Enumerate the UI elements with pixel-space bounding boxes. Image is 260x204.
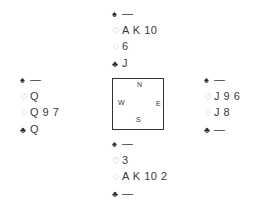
diamond-icon: ♢ <box>112 39 122 56</box>
north-clubs: ♣J <box>112 55 157 72</box>
east-diamonds: ♢J 8 <box>204 104 240 121</box>
south-hearts: ♡3 <box>112 152 168 169</box>
diamond-icon: ♢ <box>112 169 122 186</box>
east-hearts: ♡J 9 6 <box>204 88 240 105</box>
spade-icon: ♠ <box>204 72 214 89</box>
spade-icon: ♠ <box>20 72 30 89</box>
diamond-icon: ♢ <box>20 105 30 122</box>
north-spades: ♠— <box>112 5 157 22</box>
south-spades: ♠— <box>112 135 168 152</box>
compass-box: N W E S <box>112 78 164 130</box>
west-hearts: ♡Q <box>20 88 59 105</box>
spade-icon: ♠ <box>112 6 122 23</box>
compass-south: S <box>136 116 141 123</box>
diamond-icon: ♢ <box>204 105 214 122</box>
club-icon: ♣ <box>112 186 122 203</box>
heart-icon: ♡ <box>112 23 122 40</box>
east-clubs: ♣— <box>204 121 240 138</box>
east-hand: ♠— ♡J 9 6 ♢J 8 ♣— <box>204 71 240 138</box>
north-diamonds: ♢6 <box>112 38 157 55</box>
south-hand: ♠— ♡3 ♢A K 10 2 ♣— <box>112 135 168 202</box>
heart-icon: ♡ <box>112 153 122 170</box>
north-hearts: ♡A K 10 <box>112 22 157 39</box>
west-spades: ♠— <box>20 71 59 88</box>
compass-east: E <box>156 100 161 107</box>
west-clubs: ♣Q <box>20 121 59 138</box>
east-spades: ♠— <box>204 71 240 88</box>
south-diamonds: ♢A K 10 2 <box>112 168 168 185</box>
spade-icon: ♠ <box>112 136 122 153</box>
heart-icon: ♡ <box>204 89 214 106</box>
north-hand: ♠— ♡A K 10 ♢6 ♣J <box>112 5 157 72</box>
south-clubs: ♣— <box>112 185 168 202</box>
west-hand: ♠— ♡Q ♢Q 9 7 ♣Q <box>20 71 59 138</box>
club-icon: ♣ <box>204 122 214 139</box>
compass-west: W <box>118 99 125 106</box>
club-icon: ♣ <box>112 56 122 73</box>
compass-north: N <box>137 81 142 88</box>
west-diamonds: ♢Q 9 7 <box>20 104 59 121</box>
club-icon: ♣ <box>20 122 30 139</box>
heart-icon: ♡ <box>20 89 30 106</box>
